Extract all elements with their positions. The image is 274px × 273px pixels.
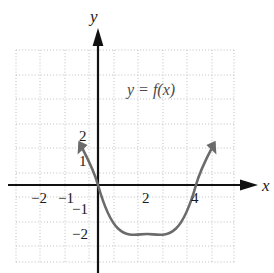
y-axis bbox=[93, 28, 104, 273]
function-label: y = f(x) bbox=[127, 82, 175, 98]
y-tick-label-neg1: −1 bbox=[72, 202, 88, 217]
x-tick-label-2: 2 bbox=[142, 191, 150, 206]
x-tick-label-neg2: −2 bbox=[31, 191, 47, 206]
x-axis bbox=[8, 180, 258, 191]
x-tick-label-4: 4 bbox=[191, 191, 199, 206]
graph-figure: y x y = f(x) −2 −1 2 4 2 1 −1 −2 bbox=[0, 0, 274, 273]
y-axis-label: y bbox=[90, 8, 98, 25]
y-tick-label-2: 2 bbox=[79, 129, 87, 144]
y-tick-label-1: 1 bbox=[79, 154, 87, 169]
x-axis-label: x bbox=[262, 177, 270, 194]
graph-canvas bbox=[0, 0, 274, 273]
grid-lines bbox=[16, 50, 234, 262]
y-tick-label-neg2: −2 bbox=[72, 227, 88, 242]
